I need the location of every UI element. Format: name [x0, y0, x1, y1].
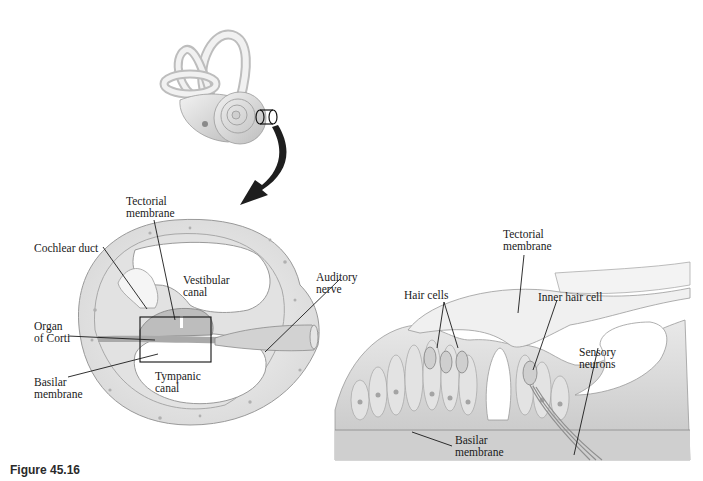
figure-caption: Figure 45.16: [10, 463, 80, 477]
cochlea-cross-section-illustration: [68, 219, 340, 425]
cochlea-figure: [0, 0, 703, 481]
cochlea-spiral: [214, 92, 266, 144]
label-sensory-neurons: Sensory neurons: [579, 346, 616, 370]
label-organ-of-corti: Organ of Corti: [34, 320, 70, 344]
organ-of-corti-illustration: [335, 255, 690, 460]
label-tympanic-canal: Tympanic canal: [155, 370, 201, 394]
label-hair-cells: Hair cells: [404, 289, 448, 301]
inner-ear-illustration: [164, 34, 286, 205]
label-vestibular-canal: Vestibular canal: [183, 274, 230, 298]
label-cochlear-duct: Cochlear duct: [34, 242, 98, 254]
label-basilar-membrane-right: Basilar membrane: [455, 434, 504, 458]
label-tectorial-membrane-right: Tectorial membrane: [503, 228, 552, 252]
label-auditory-nerve: Auditory nerve: [316, 271, 358, 295]
label-tectorial-membrane-left: Tectorial membrane: [126, 195, 175, 219]
label-basilar-membrane-left: Basilar membrane: [34, 376, 83, 400]
basilar-membrane-detail: [335, 429, 690, 461]
outer-hair-cells: [424, 347, 468, 373]
label-inner-hair-cell: Inner hair cell: [538, 291, 603, 303]
